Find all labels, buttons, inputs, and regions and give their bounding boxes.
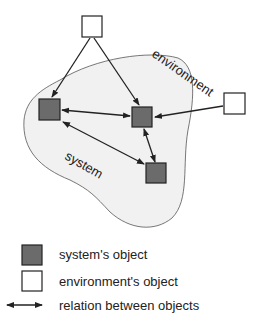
legend-environment-object-label: environment's object bbox=[59, 274, 178, 289]
legend-relation-label: relation between objects bbox=[59, 298, 199, 313]
legend-environment-object-icon bbox=[22, 271, 42, 291]
env-object-right bbox=[224, 93, 245, 114]
legend-system-object-label: system's object bbox=[59, 247, 147, 262]
system-region bbox=[24, 55, 193, 227]
env-object-top bbox=[82, 16, 102, 37]
sys-object-center bbox=[132, 107, 152, 127]
legend-system-object-icon bbox=[22, 245, 42, 265]
sys-object-bottom bbox=[146, 163, 166, 183]
sys-object-left bbox=[39, 99, 60, 120]
